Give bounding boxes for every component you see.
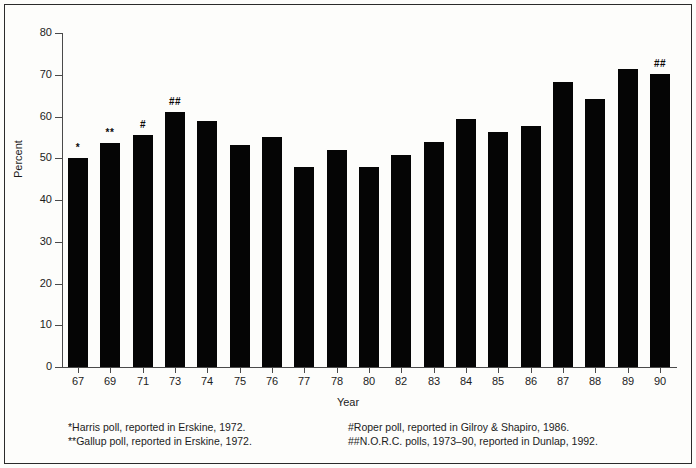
y-axis-tick-label-text: 0 [16,361,52,372]
x-axis-title: Year [0,396,696,408]
x-axis-tick-label: 67 [62,376,94,387]
y-axis-tick-label: 10 [8,319,52,331]
y-axis-tick-label-text: 30 [16,236,52,247]
x-axis-tick [175,367,176,373]
x-axis-tick [304,367,305,373]
x-axis-tick [401,367,402,373]
x-axis-tick-label: 73 [159,376,191,387]
y-axis-tick [55,33,63,34]
bar-annotation-90: ## [644,59,676,69]
x-axis-tick [660,367,661,373]
x-axis-tick [337,367,338,373]
x-axis-tick [240,367,241,373]
bar-annotation-71: # [127,120,159,130]
x-axis-tick-label: 83 [418,376,450,387]
x-axis-tick-label: 78 [321,376,353,387]
footnotes-left: *Harris poll, reported in Erskine, 1972.… [68,420,252,448]
x-axis-tick [272,367,273,373]
y-axis-tick-label-text: 50 [16,152,52,163]
x-axis-tick [498,367,499,373]
y-axis-tick [55,75,63,76]
y-axis-tick [55,325,63,326]
x-axis-tick [531,367,532,373]
bar-87 [553,82,573,367]
figure-canvas: Percent 01020304050607080 ***##### 67697… [0,0,696,468]
x-axis-tick-label: 89 [612,376,644,387]
bar-74 [197,121,217,367]
bar-83 [424,142,444,367]
y-axis-tick [55,117,63,118]
x-axis-tick [207,367,208,373]
y-axis-tick-label-text: 80 [16,27,52,38]
footnote-gallup: **Gallup poll, reported in Erskine, 1972… [68,434,252,448]
x-axis-tick-label: 80 [353,376,385,387]
x-axis-tick-label: 88 [579,376,611,387]
x-axis-tick [563,367,564,373]
y-axis-tick [55,200,63,201]
x-axis-tick-label: 75 [224,376,256,387]
bar-89 [618,69,638,367]
y-axis-tick-label: 60 [8,111,52,123]
bar-77 [294,167,314,367]
x-axis-tick [434,367,435,373]
bar-75 [230,145,250,367]
footnotes-right: #Roper poll, reported in Gilroy & Shapir… [348,420,598,448]
y-axis-tick-label-text: 70 [16,69,52,80]
footnote-roper: #Roper poll, reported in Gilroy & Shapir… [348,420,598,434]
x-axis-tick [110,367,111,373]
x-axis-tick-label: 87 [547,376,579,387]
y-axis-tick [55,158,63,159]
x-axis-tick-label: 69 [94,376,126,387]
x-axis-tick-label: 74 [191,376,223,387]
y-axis-tick [55,367,63,368]
footnote-norc: ##N.O.R.C. polls, 1973–90, reported in D… [348,434,598,448]
x-axis-tick-label: 71 [127,376,159,387]
y-axis-tick [55,242,63,243]
y-axis-tick-label-text: 40 [16,194,52,205]
bar-80 [359,167,379,367]
y-axis-tick-label-text: 20 [16,278,52,289]
y-axis-tick-label-text: 10 [16,319,52,330]
bar-annotation-73: ## [159,97,191,107]
bar-86 [521,126,541,367]
bar-67 [68,158,88,367]
y-axis-tick-label: 20 [8,278,52,290]
bar-78 [327,150,347,367]
bar-76 [262,137,282,367]
y-axis-tick-label: 40 [8,194,52,206]
y-axis-tick-label: 80 [8,27,52,39]
x-axis-tick [143,367,144,373]
y-axis-tick-label: 30 [8,236,52,248]
bar-85 [488,132,508,367]
x-axis-tick-label: 85 [482,376,514,387]
x-axis-tick-label: 76 [256,376,288,387]
x-axis-tick [628,367,629,373]
bar-90 [650,74,670,367]
y-axis-tick [55,284,63,285]
x-axis-tick [466,367,467,373]
x-axis-tick-label: 84 [450,376,482,387]
footnote-harris: *Harris poll, reported in Erskine, 1972. [68,420,252,434]
bar-69 [100,143,120,367]
x-axis-tick-label: 82 [385,376,417,387]
bar-82 [391,155,411,367]
x-axis-tick [595,367,596,373]
y-axis-tick-label: 50 [8,152,52,164]
x-axis-tick-label: 90 [644,376,676,387]
bar-84 [456,119,476,367]
y-axis-tick-label: 0 [8,361,52,373]
y-axis-tick-label-text: 60 [16,111,52,122]
y-axis-tick-label: 70 [8,69,52,81]
bar-73 [165,112,185,367]
x-axis-tick-label: 86 [515,376,547,387]
bar-annotation-69: ** [94,128,126,138]
x-axis-tick [369,367,370,373]
bar-annotation-67: * [62,143,94,153]
bar-71 [133,135,153,367]
x-axis-tick [78,367,79,373]
bar-88 [585,99,605,367]
x-axis-tick-label: 77 [288,376,320,387]
